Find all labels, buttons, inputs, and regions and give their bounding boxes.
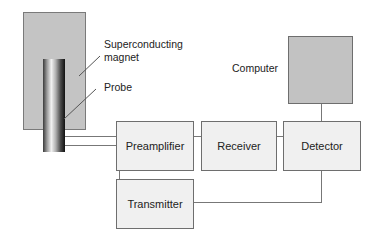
detector-transmitter-wire-vertical	[321, 171, 322, 203]
preamp-transmitter-wire	[119, 171, 120, 179]
probe-preamp-wire-1	[65, 136, 116, 137]
computer-detector-wire	[321, 104, 322, 121]
magnet-label: Superconducting magnet	[104, 38, 183, 64]
receiver-label: Receiver	[217, 140, 260, 152]
preamplifier-label: Preamplifier	[126, 140, 185, 152]
transmitter-block: Transmitter	[116, 179, 194, 229]
preamplifier-block: Preamplifier	[116, 121, 194, 171]
detector-block: Detector	[283, 121, 361, 171]
computer-block	[288, 36, 353, 104]
probe-preamp-wire-2	[65, 145, 116, 146]
transmitter-label: Transmitter	[127, 198, 182, 210]
computer-label: Computer	[232, 62, 278, 75]
preamp-receiver-wire	[194, 136, 201, 137]
probe-label: Probe	[104, 81, 132, 94]
receiver-block: Receiver	[201, 121, 277, 171]
magnet-label-line1: Superconducting	[104, 38, 183, 51]
detector-label: Detector	[301, 140, 343, 152]
magnet-label-line2: magnet	[104, 51, 183, 64]
detector-transmitter-wire-horizontal	[194, 202, 322, 203]
